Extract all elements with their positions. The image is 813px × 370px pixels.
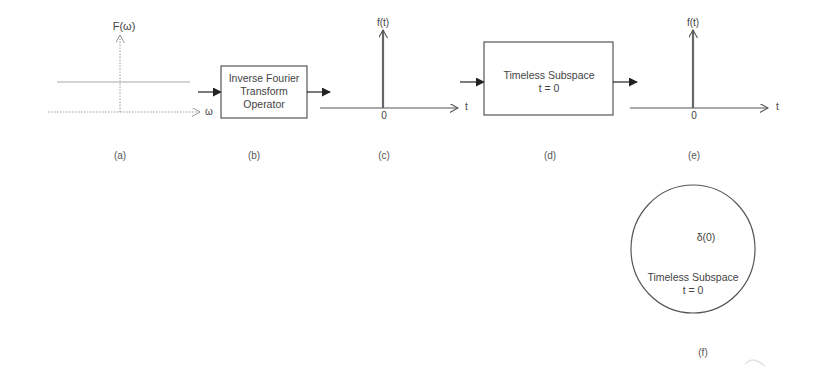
operator-line-3: Operator [219, 98, 309, 111]
operator-line-2: Transform [219, 85, 309, 98]
scan-artifact [745, 360, 765, 366]
c-y-axis-label: f(t) [377, 18, 389, 28]
panel-e-label: (e) [688, 150, 700, 161]
c-origin-label: 0 [381, 111, 387, 121]
timeless-box-line-1: Timeless Subspace [484, 69, 614, 82]
f-circle-line-2: t = 0 [633, 284, 753, 297]
operator-line-1: Inverse Fourier [219, 72, 309, 85]
panel-c-graph [320, 30, 458, 108]
f-circle-line-1: Timeless Subspace [633, 271, 753, 284]
panel-b-label: (b) [248, 150, 260, 161]
a-x-axis-label: ω [205, 107, 213, 117]
a-y-axis-label: F(ω) [113, 21, 136, 32]
panel-f-label: (f) [698, 347, 707, 358]
f-delta-label: δ(0) [697, 232, 716, 243]
f-circle-text: Timeless Subspace t = 0 [633, 271, 753, 297]
e-x-axis-label: t [776, 102, 779, 112]
panel-a-graph [48, 35, 200, 112]
timeless-box-line-2: t = 0 [484, 82, 614, 95]
panel-d-label: (d) [544, 150, 556, 161]
timeless-box-text: Timeless Subspace t = 0 [484, 69, 614, 95]
c-x-axis-label: t [465, 102, 468, 112]
operator-box-text: Inverse Fourier Transform Operator [219, 72, 309, 111]
panel-a-label: (a) [114, 150, 126, 161]
e-origin-label: 0 [691, 111, 697, 121]
e-y-axis-label: f(t) [687, 18, 699, 28]
panel-e-graph [630, 30, 768, 108]
panel-c-label: (c) [378, 150, 390, 161]
